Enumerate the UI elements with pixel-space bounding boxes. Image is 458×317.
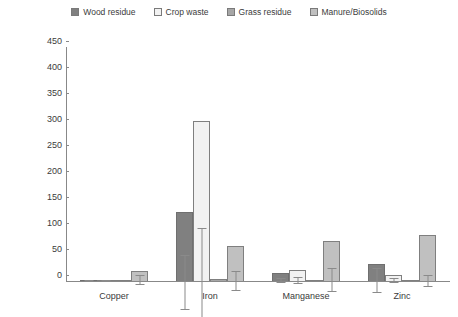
error-bar-cap-top bbox=[231, 271, 240, 272]
chart-legend: Wood residueCrop wasteGrass residueManur… bbox=[0, 8, 458, 17]
bar-slot bbox=[419, 47, 436, 281]
bar-slot bbox=[385, 47, 402, 281]
bar-slot bbox=[227, 47, 244, 281]
bar[interactable] bbox=[227, 246, 244, 281]
y-axis-tick-label: 250 bbox=[22, 139, 62, 151]
x-axis-category-label: Zinc bbox=[354, 291, 450, 301]
bar-slot bbox=[289, 47, 306, 281]
error-bar-cap-bottom bbox=[389, 282, 398, 283]
bar-chart: Wood residueCrop wasteGrass residueManur… bbox=[0, 0, 458, 317]
bar[interactable] bbox=[385, 275, 402, 281]
bar-slot bbox=[114, 47, 131, 281]
bar[interactable] bbox=[306, 280, 323, 282]
plot-area: 450400350300250200150100500 CopperIronMa… bbox=[66, 47, 450, 282]
bar[interactable] bbox=[210, 279, 227, 281]
error-bar bbox=[331, 269, 332, 293]
legend-item[interactable]: Crop waste bbox=[154, 8, 209, 17]
error-bar-cap-top bbox=[180, 255, 189, 256]
bar-slot bbox=[306, 47, 323, 281]
bar[interactable] bbox=[323, 241, 340, 281]
error-bar-cap-top bbox=[135, 275, 144, 276]
y-axis-tick-label: 0 bbox=[22, 269, 62, 281]
y-axis-tick-label: 400 bbox=[22, 61, 62, 73]
bar-slot bbox=[193, 47, 210, 281]
error-bar-cap-top bbox=[423, 275, 432, 276]
legend-item[interactable]: Wood residue bbox=[71, 8, 135, 17]
legend-swatch-icon bbox=[310, 8, 318, 16]
bar[interactable] bbox=[97, 280, 114, 282]
bar[interactable] bbox=[419, 235, 436, 281]
legend-item-label: Wood residue bbox=[83, 8, 135, 17]
legend-item-label: Crop waste bbox=[166, 8, 209, 17]
error-bar-cap-bottom bbox=[180, 309, 189, 310]
error-bar-cap-top bbox=[293, 277, 302, 278]
bar-group: Zinc bbox=[354, 47, 450, 281]
x-axis-category-label: Iron bbox=[162, 291, 258, 301]
bar[interactable] bbox=[193, 121, 210, 281]
bar[interactable] bbox=[131, 271, 148, 281]
bar[interactable] bbox=[114, 280, 131, 282]
bar-slot bbox=[97, 47, 114, 281]
bar-slot bbox=[272, 47, 289, 281]
error-bar-cap-bottom bbox=[276, 282, 285, 283]
bar[interactable] bbox=[272, 273, 289, 281]
bar-slot bbox=[402, 47, 419, 281]
bar-group: Manganese bbox=[258, 47, 354, 281]
error-bar-cap-bottom bbox=[423, 286, 432, 287]
legend-item[interactable]: Manure/Biosolids bbox=[310, 8, 387, 17]
error-bar-cap-top bbox=[197, 228, 206, 229]
bar[interactable] bbox=[80, 280, 97, 282]
bar-slot bbox=[80, 47, 97, 281]
y-axis-tick-label: 100 bbox=[22, 217, 62, 229]
legend-item[interactable]: Grass residue bbox=[227, 8, 292, 17]
error-bar-cap-top bbox=[389, 278, 398, 279]
bar[interactable] bbox=[368, 264, 385, 281]
bar-slot bbox=[210, 47, 227, 281]
error-bar-cap-bottom bbox=[135, 284, 144, 285]
y-axis-tick-label: 150 bbox=[22, 191, 62, 203]
bar[interactable] bbox=[402, 280, 419, 282]
bar-slot bbox=[323, 47, 340, 281]
bar-group: Iron bbox=[162, 47, 258, 281]
legend-swatch-icon bbox=[71, 8, 79, 16]
y-axis-tick-label: 300 bbox=[22, 113, 62, 125]
error-bar bbox=[376, 269, 377, 293]
bar-slot bbox=[368, 47, 385, 281]
bar-group: Copper bbox=[66, 47, 162, 281]
y-axis-tick-label: 50 bbox=[22, 243, 62, 255]
y-axis-tick-mark bbox=[66, 41, 69, 42]
y-axis-tick-label: 450 bbox=[22, 35, 62, 47]
legend-item-label: Manure/Biosolids bbox=[322, 8, 387, 17]
error-bar-cap-top bbox=[276, 278, 285, 279]
error-bar-cap-top bbox=[372, 268, 381, 269]
legend-swatch-icon bbox=[227, 8, 235, 16]
error-bar bbox=[184, 256, 185, 310]
error-bar bbox=[201, 229, 202, 317]
error-bar-cap-bottom bbox=[101, 281, 110, 282]
y-axis-tick-label: 350 bbox=[22, 87, 62, 99]
error-bar-cap-bottom bbox=[293, 283, 302, 284]
legend-item-label: Grass residue bbox=[239, 8, 292, 17]
error-bar-cap-top bbox=[327, 268, 336, 269]
bar[interactable] bbox=[176, 212, 193, 281]
bar-slot bbox=[131, 47, 148, 281]
bar-slot bbox=[176, 47, 193, 281]
x-axis-category-label: Manganese bbox=[258, 291, 354, 301]
y-axis-tick-label: 200 bbox=[22, 165, 62, 177]
x-axis-category-label: Copper bbox=[66, 291, 162, 301]
error-bar-cap-bottom bbox=[84, 281, 93, 282]
bar[interactable] bbox=[289, 270, 306, 281]
legend-swatch-icon bbox=[154, 8, 162, 16]
error-bar bbox=[235, 272, 236, 291]
